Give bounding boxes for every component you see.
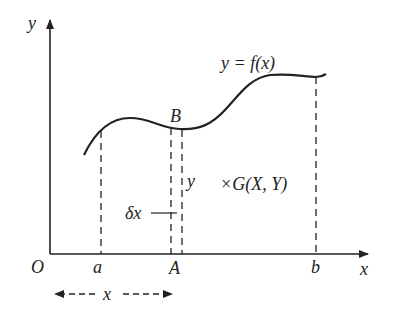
tick-label-A: A	[168, 258, 181, 278]
curve-label: y = f(x)	[219, 53, 275, 74]
strip-width-label: δx	[125, 203, 141, 223]
point-label-B: B	[170, 106, 181, 126]
strip-height-label: y	[185, 171, 195, 191]
curve-f	[84, 74, 326, 155]
tick-label-b: b	[311, 257, 320, 277]
tick-label-a: a	[93, 257, 102, 277]
centroid-label: ×G(X, Y)	[220, 174, 287, 195]
area-under-curve-diagram: y x O a A b B y = f(x) y δx ×G(X, Y) x	[0, 0, 396, 319]
origin-label: O	[31, 257, 44, 277]
x-axis-label: x	[359, 259, 368, 279]
distance-label: x	[102, 284, 111, 304]
y-axis-label: y	[26, 13, 36, 33]
